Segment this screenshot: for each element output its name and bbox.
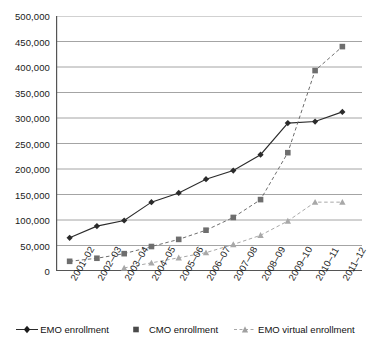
data-point-marker	[312, 118, 318, 124]
legend-square-marker-icon	[125, 324, 147, 335]
data-point-marker	[203, 176, 209, 182]
legend-item-cmo: CMO enrollment	[125, 324, 218, 335]
legend-triangle-marker-icon	[234, 324, 256, 335]
data-point-marker	[94, 255, 100, 261]
data-point-marker	[203, 227, 209, 233]
chart-legend: EMO enrollment CMO enrollment EMO virtua…	[0, 320, 371, 338]
legend-diamond-marker-icon	[16, 324, 38, 335]
data-point-marker	[258, 197, 264, 203]
line-chart: 500,000450,000400,000350,000300,000250,0…	[0, 0, 371, 341]
legend-label-emo-virtual: EMO virtual enrollment	[258, 324, 355, 335]
data-point-marker	[340, 44, 346, 50]
y-axis-tick-label: 300,000	[15, 113, 50, 124]
data-point-marker	[339, 109, 345, 115]
series-line-diamond	[70, 112, 343, 238]
data-point-marker	[176, 190, 182, 196]
data-point-marker	[121, 217, 127, 223]
data-point-marker	[312, 199, 318, 205]
y-axis-tick-label: 100,000	[15, 215, 50, 226]
series-markers	[67, 44, 346, 271]
data-point-marker	[312, 68, 318, 74]
data-point-marker	[257, 232, 263, 238]
y-axis-tick-label: 50,000	[20, 240, 50, 251]
y-axis-tick-label: 200,000	[15, 164, 50, 175]
legend-label-emo: EMO enrollment	[40, 324, 109, 335]
y-axis-tick-label: 450,000	[15, 36, 50, 47]
y-axis-tick-label: 350,000	[15, 87, 50, 98]
data-point-marker	[94, 223, 100, 229]
legend-item-emo-virtual: EMO virtual enrollment	[234, 324, 355, 335]
gridlines	[56, 16, 362, 271]
data-point-marker	[148, 260, 154, 266]
y-axis-tick-label: 0	[45, 266, 50, 277]
y-axis-tick-label: 400,000	[15, 62, 50, 73]
plot-area	[56, 16, 362, 271]
data-point-marker	[176, 237, 182, 243]
data-point-marker	[67, 259, 73, 265]
legend-label-cmo: CMO enrollment	[149, 324, 218, 335]
data-point-marker	[339, 199, 345, 205]
y-axis-tick-label: 150,000	[15, 189, 50, 200]
y-axis-tick-label: 500,000	[15, 11, 50, 22]
data-point-marker	[230, 241, 236, 247]
data-point-marker	[285, 218, 291, 224]
y-axis-tick-labels: 500,000450,000400,000350,000300,000250,0…	[0, 0, 54, 341]
data-point-marker	[230, 167, 236, 173]
y-axis-tick-label: 250,000	[15, 138, 50, 149]
plot-svg	[56, 16, 362, 271]
data-point-marker	[285, 150, 291, 156]
data-point-marker	[148, 199, 154, 205]
data-point-marker	[67, 235, 73, 241]
x-axis-tick-labels: 2001–022002–032003–042004–052005–062006–…	[56, 271, 362, 319]
legend-item-emo: EMO enrollment	[16, 324, 109, 335]
series-lines	[70, 47, 343, 268]
data-point-marker	[230, 215, 236, 221]
